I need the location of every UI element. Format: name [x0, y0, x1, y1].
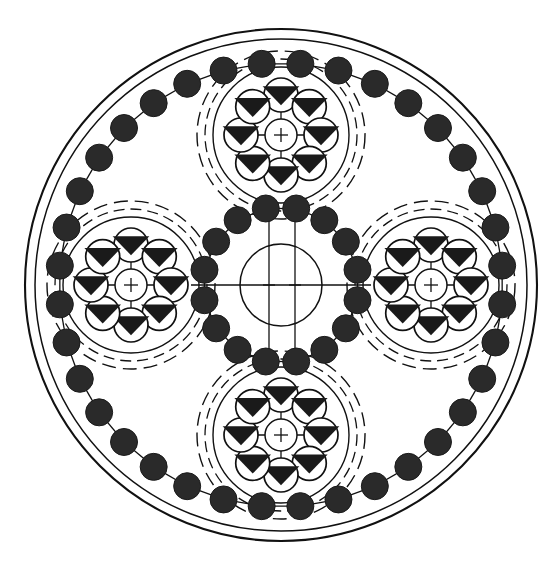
outer-bead	[395, 453, 422, 480]
outer-bead	[469, 365, 496, 392]
outer-bead	[424, 428, 451, 455]
outer-bead	[46, 252, 73, 279]
outer-bead	[287, 50, 314, 77]
outer-bead	[53, 329, 80, 356]
outer-bead	[449, 399, 476, 426]
outer-bead	[489, 291, 516, 318]
outer-bead	[325, 486, 352, 513]
hub-bead	[203, 315, 230, 342]
figure-root	[0, 0, 556, 567]
hub-bead	[311, 207, 338, 234]
hub-bead	[344, 287, 371, 314]
outer-bead	[489, 252, 516, 279]
outer-bead	[361, 70, 388, 97]
hub-bead	[311, 336, 338, 363]
outer-bead	[86, 399, 113, 426]
hub-bead	[191, 256, 218, 283]
outer-bead	[174, 473, 201, 500]
hub-bead	[252, 195, 279, 222]
outer-bead	[66, 178, 93, 205]
hub-bead	[344, 256, 371, 283]
outer-bead	[361, 473, 388, 500]
outer-bead	[111, 428, 138, 455]
outer-bead	[86, 144, 113, 171]
hub-bead	[332, 228, 359, 255]
outer-bead	[210, 486, 237, 513]
hub-bead	[332, 315, 359, 342]
hub-bead	[191, 287, 218, 314]
hub-bead	[283, 195, 310, 222]
outer-bead	[111, 115, 138, 142]
hub-bead	[224, 336, 251, 363]
outer-bead	[46, 291, 73, 318]
outer-bead	[53, 214, 80, 241]
outer-bead	[469, 178, 496, 205]
outer-bead	[140, 453, 167, 480]
outer-bead	[248, 493, 275, 520]
outer-bead	[449, 144, 476, 171]
outer-bead	[174, 70, 201, 97]
hub-bead	[252, 348, 279, 375]
outer-bead	[482, 214, 509, 241]
outer-bead	[325, 57, 352, 84]
outer-bead	[140, 90, 167, 117]
hub-bead	[224, 207, 251, 234]
hub-bead	[203, 228, 230, 255]
outer-bead	[210, 57, 237, 84]
assembly-drawing	[0, 0, 556, 567]
outer-bead	[482, 329, 509, 356]
outer-bead	[287, 493, 314, 520]
hub-bead	[283, 348, 310, 375]
outer-bead	[424, 115, 451, 142]
outer-bead	[66, 365, 93, 392]
outer-bead	[248, 50, 275, 77]
outer-bead	[395, 90, 422, 117]
